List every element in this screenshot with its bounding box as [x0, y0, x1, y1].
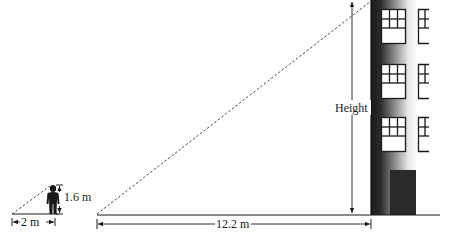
person-shadow-label: 2 m	[21, 215, 40, 229]
similar-triangles-diagram: 1.6 m 2 m	[0, 0, 449, 239]
building-door	[390, 170, 416, 215]
window	[382, 10, 406, 44]
person-height-label: 1.6 m	[64, 190, 92, 204]
person-icon	[47, 185, 60, 214]
building-sight-line	[97, 1, 371, 214]
person-group: 1.6 m 2 m	[12, 185, 92, 229]
person-sight-line	[12, 186, 50, 214]
window	[382, 118, 406, 152]
building-shadow-label: 12.2 m	[216, 217, 250, 231]
window	[382, 65, 406, 99]
building-height-label: Height	[335, 101, 368, 115]
building-group: Height 12.2 m	[97, 0, 449, 231]
